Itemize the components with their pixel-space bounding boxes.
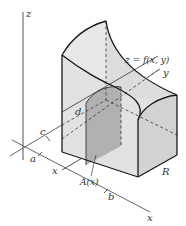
cross-section-label: A(x) [79, 177, 99, 187]
region-label: R [161, 166, 170, 177]
tick-label-b: b [108, 191, 114, 202]
tick-label-c: c [40, 126, 46, 137]
surface-label: z = f(x, y) [124, 55, 170, 65]
tick-label-a: a [30, 153, 36, 164]
y-axis-label: y [162, 67, 169, 78]
x-axis-label: x [147, 212, 153, 223]
z-axis-label: z [25, 8, 32, 19]
y-axis [148, 69, 160, 77]
tick-label-d: d [75, 106, 81, 117]
volume-diagram: z y x z = f(x, y) A(x) R c a x d b [0, 0, 186, 226]
y-axis-stub [10, 125, 62, 156]
tick-label-x: x [52, 165, 58, 176]
